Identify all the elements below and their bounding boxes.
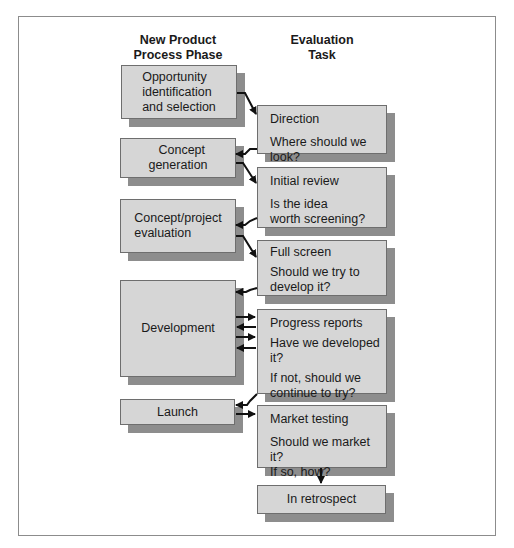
header-phase-line-2: Process Phase — [122, 48, 234, 63]
task-initial-review: Initial review Is the idea worth screeni… — [257, 167, 387, 228]
task-in-retrospect-title: In retrospect — [287, 492, 356, 507]
phase-concept-evaluation-line-2: evaluation — [134, 226, 222, 241]
header-task: Evaluation Task — [268, 33, 376, 63]
phase-opportunity-line-3: and selection — [142, 100, 216, 115]
header-phase: New Product Process Phase — [122, 33, 234, 63]
task-direction-title: Direction — [270, 112, 386, 127]
phase-concept-evaluation-line-1: Concept/project — [134, 211, 222, 226]
task-progress-reports-title: Progress reports — [270, 316, 386, 331]
phase-opportunity-line-2: identification — [142, 85, 216, 100]
phase-development-label: Development — [141, 321, 215, 336]
task-full-screen-title: Full screen — [270, 245, 386, 260]
header-task-line-1: Evaluation — [268, 33, 376, 48]
task-progress-reports-question: Have we developed it? — [270, 336, 386, 366]
task-initial-review-question-line-1: Is the idea — [270, 197, 386, 212]
task-full-screen-question-line-2: develop it? — [270, 280, 386, 295]
phase-concept-generation: Concept generation — [120, 138, 236, 178]
header-phase-line-1: New Product — [122, 33, 234, 48]
task-direction-question: Where should we look? — [270, 135, 386, 165]
task-market-testing: Market testing Should we market it? If s… — [257, 405, 387, 468]
task-progress-reports-followup-line-1: If not, should we — [270, 371, 386, 386]
task-initial-review-question-line-2: worth screening? — [270, 212, 386, 227]
task-progress-reports: Progress reports Have we developed it? I… — [257, 309, 387, 394]
phase-launch-label: Launch — [157, 405, 198, 420]
phase-launch: Launch — [120, 399, 235, 425]
phase-concept-evaluation: Concept/project evaluation — [120, 199, 236, 253]
task-full-screen-question-line-1: Should we try to — [270, 265, 386, 280]
phase-concept-generation-line-1: Concept — [148, 143, 207, 158]
task-market-testing-title: Market testing — [270, 412, 386, 427]
task-initial-review-title: Initial review — [270, 174, 386, 189]
phase-opportunity: Opportunity identification and selection — [121, 65, 237, 119]
task-in-retrospect: In retrospect — [257, 485, 386, 514]
task-direction: Direction Where should we look? — [257, 105, 387, 154]
task-full-screen: Full screen Should we try to develop it? — [257, 240, 387, 296]
header-task-line-2: Task — [268, 48, 376, 63]
task-market-testing-question-line-1: Should we market it? — [270, 435, 386, 465]
phase-opportunity-line-1: Opportunity — [142, 70, 216, 85]
task-market-testing-question-line-2: If so, how? — [270, 465, 386, 480]
task-progress-reports-followup-line-2: continue to try? — [270, 386, 386, 401]
phase-development: Development — [120, 280, 236, 377]
phase-concept-generation-line-2: generation — [148, 158, 207, 173]
